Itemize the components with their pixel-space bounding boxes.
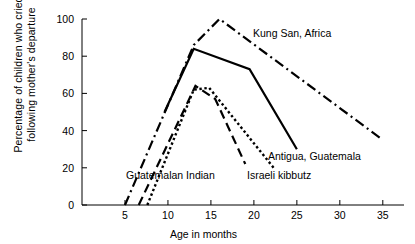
series-label-antigua: Antigua, Guatemala: [268, 150, 361, 162]
y-axis-tick-label: 20: [62, 162, 74, 174]
series-line-2: [139, 86, 246, 205]
y-axis-title: Percentage of children who cried followi…: [12, 0, 37, 175]
series-line-1: [165, 49, 297, 149]
chart-container: 5101520253035020406080100 Percentage of …: [0, 0, 415, 244]
x-axis-tick-label: 30: [334, 209, 346, 221]
y-axis-tick-label: 40: [62, 125, 74, 137]
series-label-israeli-kibbutz: Israeli kibbutz: [247, 169, 311, 181]
x-axis-tick-label: 10: [162, 209, 174, 221]
x-axis-tick-label: 25: [291, 209, 303, 221]
x-axis-title: Age in months: [170, 228, 237, 240]
x-axis-tick-label: 20: [248, 209, 260, 221]
x-axis-tick-label: 15: [205, 209, 217, 221]
series-label-guatemalan-indian: Guatemalan Indian: [126, 169, 215, 181]
line-chart: 5101520253035020406080100: [0, 0, 415, 244]
series-label-kung-san: Kung San, Africa: [253, 27, 331, 39]
x-axis-tick-label: 35: [377, 209, 389, 221]
y-axis-title-line2: following mother's departure: [24, 0, 37, 175]
y-axis-tick-label: 60: [62, 87, 74, 99]
x-axis-tick-label: 5: [122, 209, 128, 221]
y-axis-tick-label: 80: [62, 50, 74, 62]
y-axis-title-line1: Percentage of children who cried: [12, 0, 25, 175]
y-axis-tick-label: 0: [68, 199, 74, 211]
y-axis-tick-label: 100: [56, 13, 74, 25]
